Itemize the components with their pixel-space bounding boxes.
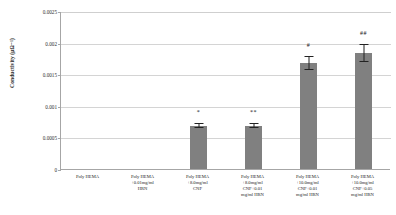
error-bar bbox=[363, 45, 364, 53]
error-bar-cap-top bbox=[359, 44, 368, 45]
plot-area: 0.00250.0020.00150.0010.00050 ***### bbox=[60, 12, 390, 170]
x-axis-label: Poly HEMA +0.01mg/ml HRN bbox=[115, 174, 170, 192]
y-tick-mark bbox=[58, 170, 61, 171]
error-bar-lower bbox=[308, 63, 309, 70]
y-tick-label: 0 bbox=[13, 167, 57, 173]
error-bar bbox=[308, 57, 309, 64]
x-axis-labels: Poly HEMAPoly HEMA +0.01mg/ml HRNPoly HE… bbox=[60, 174, 390, 214]
bar-slot: * bbox=[171, 11, 226, 169]
significance-marker: # bbox=[307, 42, 311, 48]
error-bar-cap-top bbox=[304, 56, 313, 57]
bar: ** bbox=[245, 126, 262, 169]
bar-slot: ## bbox=[336, 11, 391, 169]
bar-slot: # bbox=[281, 11, 336, 169]
bar-slot: ** bbox=[226, 11, 281, 169]
x-axis-label: Poly HEMA +10.0mg/ml CNF+0.01 mg/ml HRN bbox=[280, 174, 335, 198]
error-bar-cap-top bbox=[249, 123, 258, 124]
y-tick-label: 0.0015 bbox=[13, 72, 57, 78]
error-bar-lower bbox=[198, 126, 199, 128]
bar: * bbox=[190, 126, 207, 169]
conductivity-bar-chart: Conductivity (µΩ⁻¹) 0.00250.0020.00150.0… bbox=[0, 0, 396, 215]
error-bar-lower bbox=[363, 53, 364, 61]
significance-marker: * bbox=[197, 109, 201, 115]
bar-slot bbox=[116, 11, 171, 169]
y-tick-label: 0.001 bbox=[13, 104, 57, 110]
x-axis-label: Poly HEMA +8.0mg/ml CNF+0.01 mg/ml HRN bbox=[225, 174, 280, 198]
x-axis-label: Poly HEMA +10.0mg/ml CNF+0.05 mg/ml HRN bbox=[335, 174, 390, 198]
bar: # bbox=[300, 63, 317, 169]
x-axis-label: Poly HEMA bbox=[60, 174, 115, 180]
bar: ## bbox=[355, 53, 372, 169]
y-tick-label: 0.0025 bbox=[13, 9, 57, 15]
y-tick-label: 0.002 bbox=[13, 41, 57, 47]
y-axis-title: Conductivity (µΩ⁻¹) bbox=[9, 13, 15, 113]
error-bar-lower bbox=[253, 126, 254, 128]
error-bar-cap-top bbox=[194, 123, 203, 124]
bar-slot bbox=[61, 11, 116, 169]
bar-series: ***### bbox=[61, 11, 391, 169]
x-axis-label: Poly HEMA +8.0mg/ml CNF bbox=[170, 174, 225, 192]
significance-marker: ## bbox=[360, 30, 367, 36]
significance-marker: ** bbox=[250, 109, 257, 115]
y-tick-label: 0.0005 bbox=[13, 135, 57, 141]
